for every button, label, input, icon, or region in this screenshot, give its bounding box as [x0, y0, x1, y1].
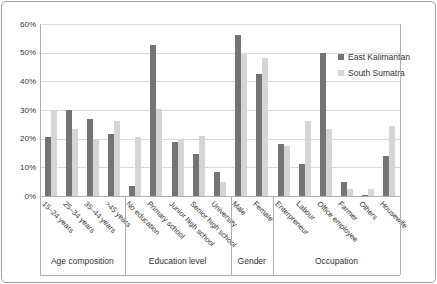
gridline [40, 24, 400, 25]
group-label: Education level [125, 256, 231, 266]
bar-south-sumatra [178, 140, 184, 196]
gridline [40, 81, 400, 82]
category-label: Female [252, 200, 275, 223]
y-axis-tick-label: 50% [8, 49, 36, 57]
bar-south-sumatra [284, 146, 290, 196]
plot-right-border [400, 24, 401, 196]
axis-bottom-line [40, 275, 400, 276]
y-axis-tick-label: 60% [8, 21, 36, 29]
bar-south-sumatra [135, 137, 141, 196]
bar-south-sumatra [305, 121, 311, 196]
bar-south-sumatra [326, 129, 332, 196]
y-axis-tick-label: 10% [8, 164, 36, 172]
category-label: Male [231, 200, 248, 217]
category-label: Housewife [379, 200, 409, 230]
legend-swatch-icon [338, 70, 344, 76]
group-label: Age composition [40, 256, 125, 266]
bar-south-sumatra [368, 189, 374, 196]
y-axis-tick-label: 20% [8, 135, 36, 143]
bar-south-sumatra [241, 54, 247, 196]
bar-south-sumatra [199, 136, 205, 196]
gridline [40, 53, 400, 54]
bar-south-sumatra [51, 110, 57, 196]
bar-south-sumatra [347, 189, 353, 196]
y-axis-tick-label: 40% [8, 78, 36, 86]
y-axis-tick-label: 30% [8, 107, 36, 115]
bar-south-sumatra [114, 121, 120, 196]
group-separator [400, 196, 401, 275]
y-axis-line [40, 24, 41, 196]
x-axis-line [40, 196, 400, 197]
bar-south-sumatra [389, 126, 395, 196]
legend-swatch-icon [338, 54, 344, 60]
legend-label: South Sumatra [348, 68, 405, 78]
bar-south-sumatra [220, 182, 226, 196]
group-label: Gender [231, 256, 273, 266]
bar-south-sumatra [156, 109, 162, 196]
y-axis-tick-label: 0% [8, 193, 36, 201]
bar-south-sumatra [72, 129, 78, 196]
bar-chart: East KalimantanSouth Sumatra 0%10%20%30%… [1, 1, 436, 283]
category-label: Others [358, 200, 380, 222]
bar-south-sumatra [262, 58, 268, 196]
gridline [40, 110, 400, 111]
group-label: Occupation [273, 256, 400, 266]
bar-south-sumatra [93, 139, 99, 196]
